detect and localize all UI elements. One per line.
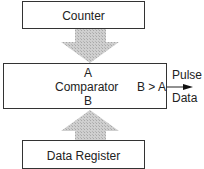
comparator-input-b: B <box>84 94 92 108</box>
data-register-block: Data Register <box>22 140 145 169</box>
comparator-block: A Comparator B B > A <box>3 63 167 109</box>
comparator-condition: B > A <box>137 80 166 94</box>
comparator-label: Comparator <box>55 80 118 94</box>
counter-label: Counter <box>23 9 144 23</box>
counter-block: Counter <box>22 1 145 29</box>
output-data-label: Data <box>172 91 197 105</box>
output-arrowhead-icon <box>183 84 193 90</box>
data-register-label: Data Register <box>23 149 144 163</box>
comparator-input-a: A <box>84 66 92 80</box>
output-pulse-label: Pulse <box>172 68 202 82</box>
counter-to-comparator-arrow <box>61 29 119 63</box>
register-to-comparator-arrow <box>61 110 119 140</box>
